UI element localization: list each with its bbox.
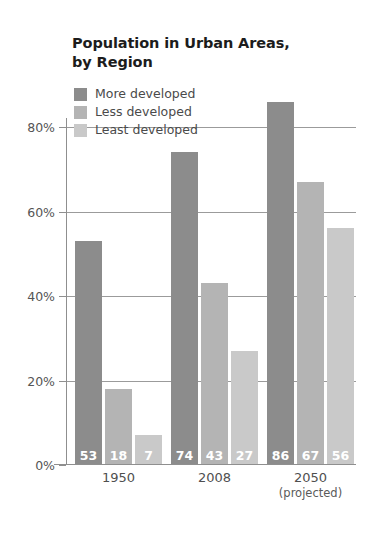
x-axis-label-main: 2008: [198, 470, 231, 485]
bar-group-2008: 744327: [171, 127, 258, 465]
legend-label-least-developed: Least developed: [95, 124, 198, 137]
chart-title: Population in Urban Areas, by Region: [72, 34, 362, 73]
y-axis-label-0: 0%: [35, 458, 55, 473]
y-tick-0: [59, 465, 66, 466]
bar-value-label: 53: [75, 450, 102, 463]
bar-1950-more-developed[interactable]: 53: [75, 241, 102, 465]
bar-2050-least-developed[interactable]: 56: [327, 228, 354, 465]
chart-title-line-2: by Region: [72, 53, 362, 72]
x-axis-labels: 195020082050(projected): [66, 470, 356, 530]
bar-1950-least-developed[interactable]: 7: [135, 435, 162, 465]
x-axis-label-main: 1950: [102, 470, 135, 485]
bar-value-label: 86: [267, 450, 294, 463]
x-axis-label-main: 2050: [294, 470, 327, 485]
bar-2050-less-developed[interactable]: 67: [297, 182, 324, 465]
bar-group-1950: 53187: [75, 127, 162, 465]
y-tick-40: [59, 296, 66, 297]
y-axis-label-60: 60%: [27, 204, 55, 219]
bar-value-label: 27: [231, 450, 258, 463]
bar-1950-less-developed[interactable]: 18: [105, 389, 132, 465]
bar-2008-least-developed[interactable]: 27: [231, 351, 258, 465]
x-axis-label-sub: (projected): [247, 486, 374, 500]
bar-value-label: 18: [105, 450, 132, 463]
legend-item-least-developed: Least developed: [74, 122, 198, 139]
y-axis-label-80: 80%: [27, 120, 55, 135]
chart-title-line-1: Population in Urban Areas,: [72, 34, 362, 53]
legend-label-less-developed: Less developed: [95, 106, 192, 119]
plot-area: 80%60%40%20%0% 53187744327866756: [66, 127, 356, 465]
bar-2050-more-developed[interactable]: 86: [267, 102, 294, 465]
bar-value-label: 56: [327, 450, 354, 463]
bar-value-label: 74: [171, 450, 198, 463]
chart-legend: More developed Less developed Least deve…: [74, 86, 198, 140]
bar-value-label: 43: [201, 450, 228, 463]
y-axis-label-40: 40%: [27, 289, 55, 304]
bar-value-label: 67: [297, 450, 324, 463]
bar-2008-less-developed[interactable]: 43: [201, 283, 228, 465]
y-tick-20: [59, 381, 66, 382]
legend-item-less-developed: Less developed: [74, 104, 198, 121]
bar-group-2050: 866756: [267, 127, 354, 465]
y-tick-80: [59, 127, 66, 128]
legend-swatch-least-developed: [74, 124, 87, 137]
y-axis-label-20: 20%: [27, 373, 55, 388]
bar-value-label: 7: [135, 450, 162, 463]
legend-swatch-more-developed: [74, 88, 87, 101]
legend-swatch-less-developed: [74, 106, 87, 119]
legend-label-more-developed: More developed: [95, 88, 195, 101]
y-tick-60: [59, 212, 66, 213]
x-axis-label-2050: 2050(projected): [247, 470, 374, 501]
x-axis-line: [54, 464, 356, 466]
legend-item-more-developed: More developed: [74, 86, 198, 103]
bars-layer: 53187744327866756: [66, 127, 356, 465]
y-axis-line: [66, 118, 67, 465]
chart-container: Population in Urban Areas, by Region Mor…: [0, 0, 385, 537]
bar-2008-more-developed[interactable]: 74: [171, 152, 198, 465]
